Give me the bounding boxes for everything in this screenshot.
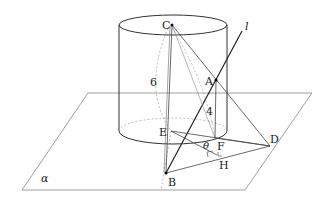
label-B: B [168,176,176,189]
label-6: 6 [150,76,157,89]
point-A [215,79,218,82]
right-angle-H [207,151,213,157]
geometry-diagram: C A B D E F H l α θ 6 4 [0,0,327,203]
line-l [166,31,242,173]
label-l: l [245,20,249,33]
point-B [165,172,168,175]
label-A: A [204,75,214,88]
point-C [171,24,174,27]
label-C: C [162,19,170,32]
label-E: E [159,126,167,139]
label-D: D [270,133,279,146]
label-4: 4 [206,105,213,118]
label-F: F [217,140,225,153]
label-theta: θ [203,140,209,151]
label-H: H [219,159,229,172]
label-alpha: α [41,172,49,185]
